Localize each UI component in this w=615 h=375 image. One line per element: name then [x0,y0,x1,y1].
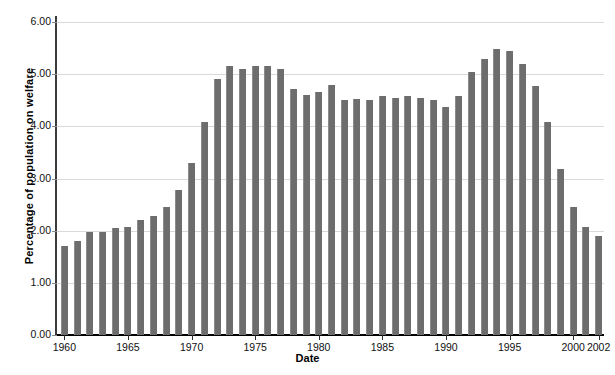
bar-1986[interactable] [392,98,399,335]
bar-1962[interactable] [86,232,93,335]
bar-1966[interactable] [137,220,144,335]
y-tick-label-6.00: 6.00 [11,15,51,27]
bar-2000[interactable] [570,207,577,335]
bar-1976[interactable] [264,66,271,335]
bar-1964[interactable] [112,228,119,335]
bar-1984[interactable] [366,100,373,335]
bar-1999[interactable] [557,169,564,335]
plot-area: 0.001.002.003.004.005.006.00 [57,22,604,335]
bar-1983[interactable] [353,99,360,335]
bar-1975[interactable] [252,66,259,335]
bar-1997[interactable] [532,86,539,335]
x-tick-mark-1980 [319,335,320,340]
bar-2001[interactable] [582,227,589,336]
bar-1960[interactable] [61,246,68,335]
bar-1988[interactable] [417,98,424,335]
bar-1987[interactable] [404,96,411,335]
bar-1968[interactable] [163,207,170,335]
bar-1979[interactable] [303,95,310,335]
bar-1991[interactable] [455,96,462,335]
y-tick-label-3.00: 3.00 [11,172,51,184]
bar-1982[interactable] [341,100,348,335]
bar-1980[interactable] [315,92,322,335]
x-axis-title: Date [0,352,615,364]
y-tick-label-4.00: 4.00 [11,119,51,131]
bar-1965[interactable] [124,227,131,336]
bar-1970[interactable] [188,163,195,335]
bar-1978[interactable] [290,89,297,335]
x-tick-mark-1975 [255,335,256,340]
welfare-bar-chart: Percentage of population on welfare 0.00… [0,0,615,375]
bar-1967[interactable] [150,216,157,335]
x-tick-mark-1970 [192,335,193,340]
bar-1990[interactable] [442,107,449,335]
y-tick-label-1.00: 1.00 [11,276,51,288]
bar-1996[interactable] [519,64,526,335]
x-tick-mark-1965 [128,335,129,340]
x-tick-mark-1960 [64,335,65,340]
y-tick-label-0.00: 0.00 [11,328,51,340]
bar-1989[interactable] [430,100,437,335]
bar-1972[interactable] [214,79,221,335]
bar-1971[interactable] [201,122,208,335]
y-tick-label-2.00: 2.00 [11,224,51,236]
bar-1995[interactable] [506,51,513,335]
bar-1969[interactable] [175,190,182,335]
bar-1992[interactable] [468,72,475,335]
x-tick-mark-2002 [599,335,600,340]
bar-1994[interactable] [493,49,500,335]
bar-1998[interactable] [544,122,551,335]
bar-1961[interactable] [74,241,81,335]
bar-1985[interactable] [379,96,386,335]
bar-1963[interactable] [99,232,106,335]
bar-1977[interactable] [277,69,284,335]
bar-1993[interactable] [481,59,488,335]
bar-1981[interactable] [328,85,335,335]
bar-1973[interactable] [226,66,233,335]
bar-1974[interactable] [239,69,246,335]
bar-2002[interactable] [595,236,602,335]
y-tick-label-5.00: 5.00 [11,67,51,79]
x-tick-mark-1995 [510,335,511,340]
x-tick-mark-1990 [446,335,447,340]
x-tick-mark-1985 [382,335,383,340]
bar-series [57,22,604,335]
x-tick-mark-2000 [573,335,574,340]
